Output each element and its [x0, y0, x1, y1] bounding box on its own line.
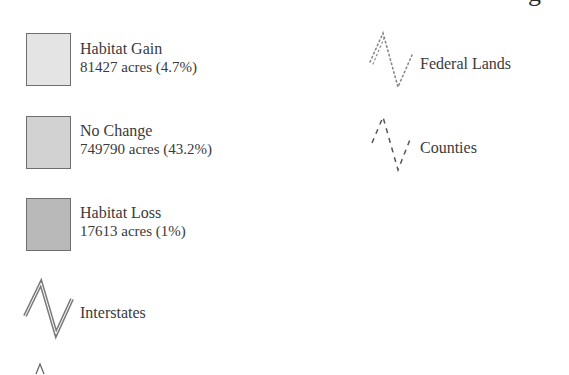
partial-caret-icon	[33, 361, 53, 375]
federal-lands-label: Federal Lands	[420, 55, 511, 73]
legend-title-fragment: g	[528, 0, 541, 8]
counties-line-icon	[0, 0, 420, 180]
counties-label: Counties	[420, 139, 477, 157]
habitat-loss-stat: 17613 acres (1%)	[80, 222, 186, 240]
habitat-loss-label: Habitat Loss 17613 acres (1%)	[80, 204, 186, 240]
habitat-loss-name: Habitat Loss	[80, 204, 186, 222]
interstates-label: Interstates	[80, 304, 146, 322]
